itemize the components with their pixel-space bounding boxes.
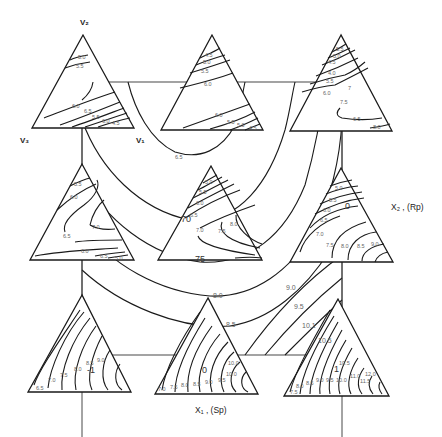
contour-label: 5.5 [74,181,82,187]
contour-label: 6.5 [84,108,92,114]
contour-label: 4.5 [249,125,257,131]
contour-label: 6.5 [353,116,361,122]
contour-label: 5.5 [326,78,334,84]
main-contour-label: 70 [181,214,191,224]
contour-label: 6.5 [320,217,328,223]
contour-label: 5.5 [92,114,100,120]
contour-label: 5.5 [336,46,344,52]
triangle-middle-left: 5.5 6.0 7.0 6.5 6.0 6.5 5.0 [30,164,134,261]
contour-label: 11.0 [350,373,360,379]
contour-label: 6.0 [72,103,80,109]
contour-label: 6.5 [100,253,108,259]
center-point-label: 1 [334,364,339,374]
contour-label: 5.5 [201,68,209,74]
triangle-top-right: 5.5 5.0 4.5 4.0 5.5 6.0 7 7.5 6.5 8.0 [290,35,392,131]
triangle-bottom-left: 6.5 7.0 7.5 8.0 8.5 9.0 -1 [28,295,131,392]
contour-label: 9.0 [205,379,213,385]
contour-label: 5.5 [227,119,235,125]
contour-label: 7.5 [340,99,348,105]
contour-label: 7.5 [170,384,178,390]
contour-label: 5.0 [78,54,86,60]
triangle-top-left: 5.0 5.5 6.0 6.5 5.5 6.0 4.5 [32,35,134,128]
contour-label: 5.5 [199,189,207,195]
contour-label: 10.0 [228,360,239,366]
contour-label: 6.5 [36,385,44,391]
contour-label: 5.0 [237,122,245,128]
contour-label: 11.5 [360,378,370,384]
main-contour-label: 9.5 [294,303,304,310]
y-axis-label: X₂ , (Rp) [391,202,424,212]
contour-label: 4.5 [112,120,120,126]
contour-label: 7.0 [48,377,56,383]
center-point-label: 0 [345,201,350,211]
contour-label: 4.5 [205,52,213,58]
center-point-label: 0 [202,365,207,375]
contour-label: 9.5 [326,377,334,383]
main-contour-label: 10.1 [302,322,316,329]
contour-label: 8.0 [296,383,304,389]
main-contour-label: 8.5 [226,321,236,328]
contour-label: 6.0 [323,207,331,213]
contour-label: 7.5 [60,372,68,378]
contour-label: 7.0 [92,224,100,230]
contour-label: 8.0 [373,124,381,130]
main-contour-label: 75 [195,254,205,264]
contour-label: 6.0 [102,118,110,124]
main-contour-label: 10.5 [318,337,332,344]
contour-label: 7 [348,85,351,91]
triangle-bottom-right: 7.5 8.0 8.5 9.0 9.5 10.0 10.5 11.0 11.5 … [284,299,389,396]
contour-label: 10.0 [336,377,347,383]
contour-label: 8.0 [230,221,238,227]
contour-label: 5.0 [115,255,123,261]
triangle-bottom-center: 7.0 7.5 8.0 8.5 9.0 9.5 10.0 10.0 0 [155,298,258,394]
contour-label: 4.0 [328,70,336,76]
contour-label: 6.0 [81,248,89,254]
contour-label: 8.0 [181,382,189,388]
vertex-label-v2: V₂ [80,18,89,27]
contour-label: 8.0 [341,243,349,249]
contour-label: 6.5 [63,233,71,239]
contour-label: 9.0 [371,241,379,247]
contour-diagram: 5.0 5.5 6.0 6.5 5.5 6.0 4.5 V₂ V₃ V₁ 4.5… [0,0,442,437]
x-axis-label: X₁ , (Sp) [195,405,227,415]
contour-label: 7.0 [158,386,166,392]
contour-label: 7.5 [290,389,298,395]
contour-label: 9.0 [316,377,324,383]
contour-label: 9.5 [218,377,226,383]
contour-label: 6.0 [215,112,223,118]
contour-label: 5.5 [76,63,84,69]
triangle-top-center: 4.5 5.0 5.5 6.0 6.0 5.5 5.0 4.5 [161,35,263,131]
contour-label: 6.5 [190,212,198,218]
contour-label: 10.5 [339,360,350,366]
contour-label: 8.5 [193,381,201,387]
triangle-middle-center: 5.0 5.5 6.0 6.5 7.0 7.5 8.0 [158,166,262,260]
vertex-label-v1: V₁ [136,136,145,145]
center-point-label: -1 [87,365,95,375]
contour-label: 7.5 [326,242,334,248]
contour-label: 8.0 [74,366,82,372]
contour-label: 6.0 [196,200,204,206]
contour-label: 5.0 [203,59,211,65]
contour-label: 9.0 [97,357,105,363]
contour-label: 7.0 [316,231,324,237]
contour-label: 7.0 [196,227,204,233]
contour-label: 8.5 [306,380,314,386]
contour-label: 8.5 [357,243,365,249]
contour-label: 4.5 [328,59,336,65]
contour-label: 5.5 [329,197,337,203]
main-contour-label: 8.0 [213,292,223,299]
contour-label: 5.0 [205,179,213,185]
contour-label: 6.0 [323,90,331,96]
vertex-label-v3: V₃ [20,136,29,145]
main-contour-label: 9.0 [286,284,296,291]
main-contour-label: 6.5 [175,154,183,160]
contour-label: 6.0 [70,194,78,200]
contour-label: 10.0 [226,371,237,377]
contour-label: 5.0 [335,185,343,191]
contour-label: 6.0 [204,81,212,87]
contour-label: 7.5 [218,228,226,234]
contour-label: 12.0 [365,371,376,377]
